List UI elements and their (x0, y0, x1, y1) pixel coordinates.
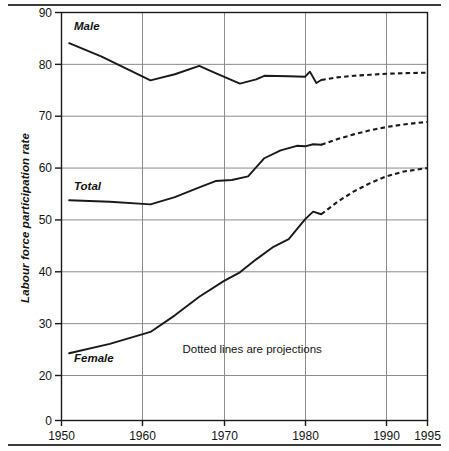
series-projection-female (321, 168, 427, 214)
series-projection-total (321, 122, 427, 145)
y-tick-label: 50 (39, 213, 53, 227)
x-tick-label: 1995 (414, 429, 441, 443)
series-line-male (69, 43, 321, 83)
y-tick-label: 60 (39, 161, 53, 175)
y-tick-label: 80 (39, 58, 53, 72)
series-label-male: Male (74, 20, 100, 32)
plot-frame (62, 13, 428, 421)
x-tick-label: 1980 (292, 429, 319, 443)
series-line-total (69, 144, 321, 204)
line-chart-plot: 0203040506070809019501960197019801990199… (0, 0, 449, 451)
y-tick-label: 20 (39, 369, 53, 383)
series-line-female (69, 212, 321, 354)
series-projection-male (321, 73, 427, 80)
gridlines (61, 12, 427, 420)
chart-text: MaleTotalFemaleDotted lines are projecti… (74, 20, 322, 364)
series-label-female: Female (74, 352, 114, 364)
y-tick-label: 40 (39, 265, 53, 279)
x-tick-label: 1970 (211, 429, 238, 443)
y-tick-label: 0 (45, 414, 52, 428)
axis-lines (62, 13, 428, 421)
x-tick-label: 1960 (129, 429, 156, 443)
x-tick-label: 1950 (48, 429, 75, 443)
chart-annotation: Dotted lines are projections (182, 343, 322, 355)
y-tick-label: 30 (39, 317, 53, 331)
x-tick-label: 1990 (373, 429, 400, 443)
chart-figure: Labour force participation rate 02030405… (0, 0, 449, 451)
series-label-total: Total (74, 180, 102, 192)
y-tick-label: 70 (39, 109, 53, 123)
data-series (69, 43, 427, 353)
axis-ticks: 0203040506070809019501960197019801990199… (39, 6, 442, 443)
y-tick-label: 90 (39, 6, 53, 20)
